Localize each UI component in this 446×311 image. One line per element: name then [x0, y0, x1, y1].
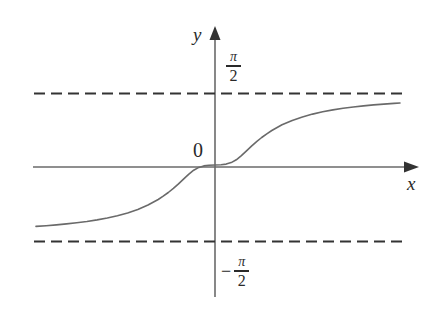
lower-asymptote-numerator: π	[236, 255, 247, 270]
upper-asymptote-denominator: 2	[230, 67, 238, 84]
arctan-graph-figure: y x 0 π 2 − π 2	[0, 0, 446, 311]
lower-asymptote-denominator: 2	[238, 272, 246, 289]
y-axis-arrowhead	[210, 26, 221, 40]
upper-asymptote-label: π 2	[223, 50, 241, 84]
x-axis-arrowhead	[404, 162, 419, 173]
lower-asymptote-sign: −	[221, 262, 231, 282]
lower-asymptote-fraction: π 2	[234, 255, 249, 289]
y-axis-label: y	[193, 25, 201, 44]
upper-asymptote-numerator: π	[228, 50, 239, 65]
origin-label: 0	[193, 140, 203, 160]
upper-asymptote-fraction: π 2	[226, 50, 241, 84]
arctan-curve	[36, 103, 400, 226]
lower-asymptote-label: − π 2	[221, 255, 249, 289]
x-axis-label: x	[407, 174, 415, 193]
